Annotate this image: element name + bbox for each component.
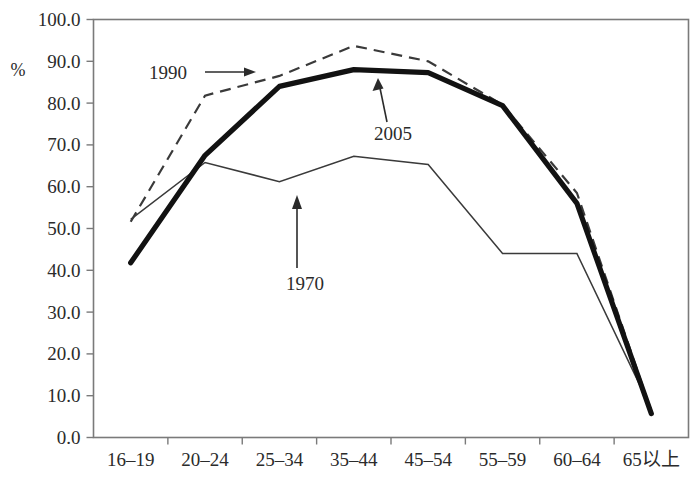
annotation-2005-arrowhead	[373, 78, 384, 91]
x-axis-tick-label: 55–59	[479, 449, 527, 470]
annotation-2005: 2005	[373, 78, 413, 144]
annotation-1970-label: 1970	[286, 273, 324, 294]
series-line-1990	[131, 46, 652, 412]
annotation-1970: 1970	[286, 195, 324, 294]
x-axis-tick-labels: 16–1920–2425–3435–4445–5455–5960–6465以上	[107, 449, 680, 470]
y-axis-tick-label: 90.0	[47, 51, 80, 72]
x-axis-tick-label: 60–64	[553, 449, 601, 470]
line-chart: 100.090.080.070.060.050.040.030.020.010.…	[0, 0, 700, 487]
series-line-1970	[131, 156, 652, 409]
y-axis-tick-label: 100.0	[38, 9, 81, 30]
x-axis-tick-label: 20–24	[181, 449, 229, 470]
series-layer	[131, 46, 652, 414]
x-axis-tick-label: 25–34	[256, 449, 304, 470]
annotation-2005-arrow	[380, 88, 387, 122]
series-line-2005	[131, 70, 652, 414]
annotation-1990: 1990	[149, 62, 256, 83]
annotation-1990-arrowhead	[244, 68, 256, 77]
chart-page: 100.090.080.070.060.050.040.030.020.010.…	[0, 0, 700, 487]
y-axis-tick-label: 60.0	[47, 176, 80, 197]
x-axis-tick-label: 65以上	[623, 449, 680, 470]
y-axis-tick-label: 40.0	[47, 260, 80, 281]
y-axis-unit-label: %	[11, 60, 26, 80]
y-axis-tick-label: 30.0	[47, 302, 80, 323]
annotation-1990-label: 1990	[149, 62, 187, 83]
x-axis-ticks	[168, 438, 614, 445]
x-axis-tick-label: 35–44	[330, 449, 378, 470]
y-axis-tick-label: 80.0	[47, 93, 80, 114]
x-axis-tick-label: 16–19	[107, 449, 155, 470]
y-axis-tick-label: 20.0	[47, 343, 80, 364]
annotation-2005-label: 2005	[374, 123, 412, 144]
y-axis-tick-label: 0.0	[57, 427, 81, 448]
annotation-1970-arrowhead	[292, 195, 302, 209]
y-axis-tick-labels: 100.090.080.070.060.050.040.030.020.010.…	[38, 9, 81, 448]
y-axis-ticks	[87, 20, 94, 438]
y-axis-tick-label: 50.0	[47, 218, 80, 239]
y-axis-tick-label: 10.0	[47, 385, 80, 406]
y-axis-tick-label: 70.0	[47, 134, 80, 155]
x-axis-tick-label: 45–54	[404, 449, 452, 470]
